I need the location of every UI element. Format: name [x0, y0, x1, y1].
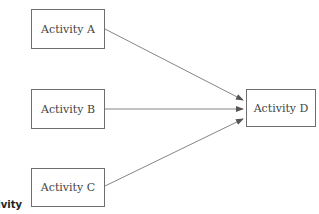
node-activity-d[interactable]: Activity D: [246, 89, 316, 127]
node-activity-c[interactable]: Activity C: [31, 168, 105, 207]
node-label: Activity D: [254, 102, 309, 115]
node-label: Activity C: [41, 181, 95, 194]
edge-c-to-d: [105, 119, 243, 186]
node-activity-a[interactable]: Activity A: [31, 9, 105, 49]
node-label: Activity A: [41, 23, 95, 36]
edge-a-to-d: [105, 29, 243, 100]
cropped-activity-label: Activity: [0, 199, 22, 210]
node-label: Activity B: [41, 103, 95, 116]
node-activity-b[interactable]: Activity B: [31, 89, 105, 129]
